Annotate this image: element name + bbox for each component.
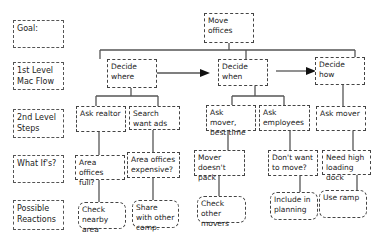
node-use-ramp: Use ramp bbox=[319, 190, 367, 218]
node-decide-how: Decide how bbox=[315, 57, 365, 85]
node-decide-when: Decide when bbox=[218, 59, 268, 86]
node-dont-want-to-move: Don't want to move? bbox=[268, 150, 318, 176]
node-ask-mover: Ask mover bbox=[316, 106, 366, 131]
node-ask-realtor: Ask realtor bbox=[76, 106, 126, 132]
row-label-2nd-level: 2nd Level Steps bbox=[13, 109, 64, 138]
node-include-in-planning: Include in planning bbox=[270, 192, 318, 220]
node-area-offices-expensive: Area offices expensive? bbox=[127, 152, 180, 178]
row-label-reactions: Possible Reactions bbox=[13, 200, 64, 230]
node-ask-mover-best-time: Ask mover, best time bbox=[206, 105, 256, 131]
arrow-right-icon bbox=[200, 69, 210, 77]
row-label-goal: Goal: bbox=[13, 20, 64, 48]
goal-node: Move offices bbox=[204, 13, 254, 43]
node-need-loading-dock: Need high loading dock bbox=[322, 150, 371, 175]
row-label-1st-level: 1st Level Mac Flow bbox=[13, 62, 64, 90]
node-share-with-other-comp: Share with other comp. bbox=[132, 200, 179, 228]
node-check-nearby-area: Check nearby area bbox=[78, 202, 126, 229]
node-ask-employees: Ask employees bbox=[259, 105, 310, 131]
node-check-other-movers: Check other movers bbox=[197, 196, 246, 223]
node-area-offices-full: Area offices full? bbox=[75, 155, 125, 180]
row-label-what-ifs: What If's? bbox=[13, 155, 64, 183]
node-mover-doesnt-pack: Mover doesn't pack bbox=[194, 150, 245, 176]
node-search-want-ads: Search want ads bbox=[129, 106, 180, 130]
node-decide-where: Decide where bbox=[107, 59, 157, 88]
